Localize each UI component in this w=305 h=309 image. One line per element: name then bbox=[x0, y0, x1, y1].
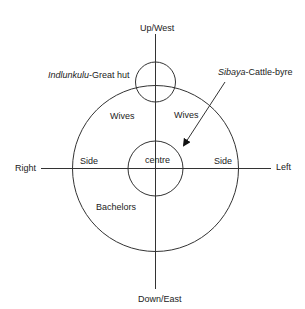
cattle-name: Sibaya bbox=[218, 67, 246, 77]
label-great-hut: Indlunkulu-Great hut bbox=[48, 71, 130, 80]
great-hut-name: Indlunkulu bbox=[48, 70, 89, 80]
homestead-diagram: Up/West Down/East Right Left Indlunkulu-… bbox=[0, 0, 305, 309]
label-centre: centre bbox=[145, 156, 170, 165]
label-wives-right: Wives bbox=[174, 111, 199, 120]
label-wives-left: Wives bbox=[110, 112, 135, 121]
label-bottom: Down/East bbox=[138, 295, 182, 304]
label-top: Up/West bbox=[140, 24, 174, 33]
label-side-left: Side bbox=[80, 157, 98, 166]
label-right: Right bbox=[15, 164, 36, 173]
label-cattle-byre: Sibaya-Cattle-byre bbox=[218, 68, 293, 77]
label-left: Left bbox=[276, 163, 291, 172]
label-side-right: Side bbox=[214, 157, 232, 166]
cattle-desc: -Cattle-byre bbox=[246, 67, 293, 77]
label-bachelors: Bachelors bbox=[96, 203, 136, 212]
great-hut-desc: -Great hut bbox=[89, 70, 130, 80]
